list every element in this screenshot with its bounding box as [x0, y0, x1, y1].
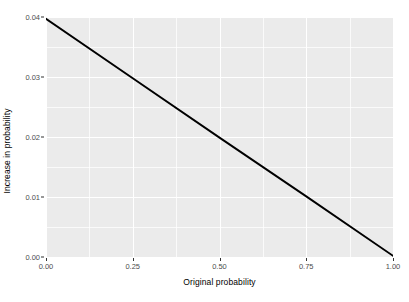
y-axis-title: Increase in probability: [0, 0, 14, 302]
plot-title: [46, 1, 393, 10]
x-axis-tick-label: 0.25: [113, 262, 153, 271]
y-axis-tick-mark: [41, 77, 44, 78]
chart-container: 0.000.010.020.030.04 Increase in probabi…: [0, 0, 409, 302]
x-axis-tick-label: 0.75: [286, 262, 326, 271]
plot-panel: [46, 17, 393, 257]
x-axis-title: Original probability: [46, 277, 393, 287]
x-axis-tick-mark: [220, 258, 221, 261]
y-axis-tick-mark: [41, 257, 44, 258]
y-axis-tick-mark: [41, 137, 44, 138]
x-axis-tick-label: 0.50: [200, 262, 240, 271]
x-axis-tick-mark: [393, 258, 394, 261]
y-axis-tick-mark: [41, 197, 44, 198]
series-line-path: [46, 19, 393, 256]
x-axis-tick-mark: [306, 258, 307, 261]
x-axis-tick-mark: [46, 258, 47, 261]
y-axis-tick-mark: [41, 17, 44, 18]
x-axis-tick-label: 0.00: [26, 262, 66, 271]
data-line-series: [46, 17, 393, 257]
x-axis-tick-mark: [133, 258, 134, 261]
x-axis-tick-label: 1.00: [373, 262, 409, 271]
